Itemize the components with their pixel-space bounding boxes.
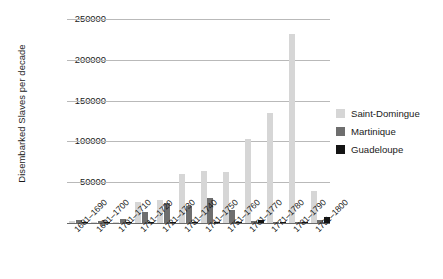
bar-group	[245, 19, 264, 223]
legend-item: Martinique	[336, 124, 441, 139]
bar-group	[289, 19, 308, 223]
bar-group	[223, 19, 242, 223]
chart-legend: Saint-DomingueMartiniqueGuadeloupe	[336, 106, 441, 160]
legend-label: Guadeloupe	[351, 144, 403, 155]
plot-area	[67, 19, 330, 224]
legend-item: Saint-Domingue	[336, 106, 441, 121]
bar-group	[91, 19, 110, 223]
legend-label: Martinique	[351, 126, 396, 137]
bar-chart: Disembarked Slaves per decade 2500002000…	[0, 0, 443, 279]
bar-group	[157, 19, 176, 223]
bar-group	[179, 19, 198, 223]
bar-group	[135, 19, 154, 223]
y-axis-title: Disembarked Slaves per decade	[16, 14, 27, 214]
bar-group	[113, 19, 132, 223]
bar-group	[311, 19, 330, 223]
legend-swatch-icon	[336, 145, 345, 154]
bar-group	[69, 19, 88, 223]
bar-group	[267, 19, 286, 223]
legend-swatch-icon	[336, 109, 345, 118]
legend-label: Saint-Domingue	[351, 108, 420, 119]
legend-item: Guadeloupe	[336, 142, 441, 157]
bar-group	[201, 19, 220, 223]
bar-saint-domingue	[289, 34, 295, 223]
legend-swatch-icon	[336, 127, 345, 136]
